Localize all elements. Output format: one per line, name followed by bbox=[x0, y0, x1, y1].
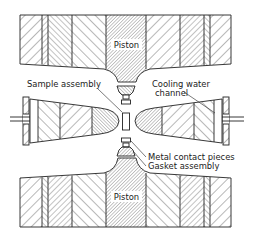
middle-ring-right bbox=[130, 90, 244, 150]
gasket-assembly-label: Gasket assembly bbox=[148, 161, 219, 171]
middle-ring-left bbox=[10, 90, 122, 150]
cooling-water-label-line2: channel bbox=[155, 88, 188, 98]
lower-gasket-assembly bbox=[117, 138, 135, 156]
high-pressure-cell-diagram: Piston bbox=[0, 0, 254, 235]
upper-block: Piston bbox=[20, 10, 231, 90]
sample-assembly-label: Sample assembly bbox=[27, 79, 101, 89]
lower-piston-label: Piston bbox=[114, 192, 139, 202]
sample bbox=[123, 113, 130, 130]
lower-piston bbox=[106, 150, 146, 230]
upper-metal-contact-piece bbox=[122, 100, 131, 104]
upper-gasket-assembly bbox=[117, 86, 135, 104]
lower-metal-contact-piece bbox=[122, 138, 131, 142]
upper-piston-label: Piston bbox=[114, 40, 139, 50]
